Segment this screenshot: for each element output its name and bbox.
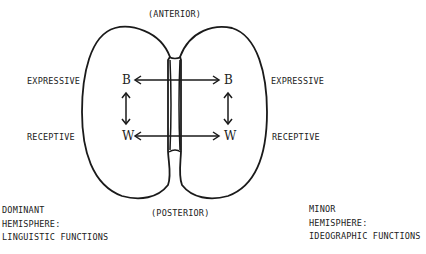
right-broca-area: B	[224, 74, 233, 86]
right-b-w-arrow	[224, 93, 232, 124]
left-b-w-arrow	[122, 93, 130, 124]
caption-line: IDEOGRAPHIC FUNCTIONS	[309, 232, 421, 241]
anterior-label: (ANTERIOR)	[148, 10, 201, 19]
right-receptive-label: RECEPTIVE	[272, 133, 320, 142]
b-to-b-arrow	[135, 76, 219, 84]
corpus-callosum	[169, 57, 181, 152]
caption-line: MINOR	[309, 205, 421, 214]
right-expressive-label: EXPRESSIVE	[271, 77, 324, 86]
left-expressive-label: EXPRESSIVE	[27, 77, 80, 86]
caption-line: DOMINANT	[2, 206, 108, 215]
left-broca-area: B	[122, 74, 131, 86]
caption-line: HEMISPHERE:	[309, 219, 421, 228]
posterior-label: (POSTERIOR)	[151, 209, 210, 218]
minor-hemisphere-caption: MINOR HEMISPHERE: IDEOGRAPHIC FUNCTIONS	[309, 205, 421, 246]
right-hemisphere-outline	[180, 27, 267, 198]
caption-line: HEMISPHERE:	[2, 220, 108, 229]
left-receptive-label: RECEPTIVE	[27, 133, 75, 142]
caption-line: LINGUISTIC FUNCTIONS	[2, 233, 108, 242]
dominant-hemisphere-caption: DOMINANT HEMISPHERE: LINGUISTIC FUNCTION…	[2, 206, 108, 247]
w-to-w-arrow	[135, 132, 219, 140]
right-wernicke-area: W	[224, 130, 236, 142]
left-wernicke-area: W	[122, 130, 134, 142]
